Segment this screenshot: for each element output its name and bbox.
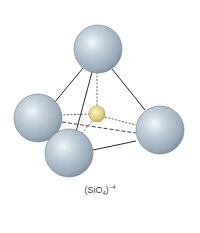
oxygen-atom-top [74,25,122,73]
bond-si-front [82,121,92,133]
bond-si-right [105,117,136,125]
dashed-bonds [60,72,136,133]
formula-label: (SiO4)−4 [0,184,200,196]
edge-top-front [76,72,92,132]
silicon-atom-center [89,106,105,122]
oxygen-atom-front [45,129,93,177]
oxygen-atom-right [136,106,184,154]
formula-prefix: (SiO [84,185,102,195]
edge-top-right [112,69,145,110]
edge-top-left [54,68,83,103]
edge-front-right [93,141,136,150]
silicate-tetrahedron-diagram [0,0,200,233]
formula-charge: −4 [109,184,116,190]
bond-si-left [60,114,89,115]
